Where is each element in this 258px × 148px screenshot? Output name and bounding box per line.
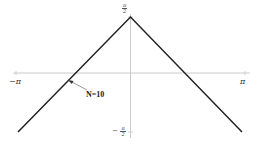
y-tick-label-neg-half-pi: − π 2 [112,126,126,137]
annotation-n10: N=10 [86,91,104,99]
y-tick-label-pos-half-pi: π 2 [122,3,127,14]
x-tick-label-pos-pi: π [240,78,245,86]
x-tick-label-neg-pi: −π [9,78,21,86]
curve-n10 [18,17,242,132]
triangle-wave-plot [0,0,258,148]
y-neg-denominator: 2 [120,132,125,137]
y-neg-sign: − [112,127,118,135]
annotation-arrowhead [68,80,74,84]
y-pos-denominator: 2 [122,9,127,14]
